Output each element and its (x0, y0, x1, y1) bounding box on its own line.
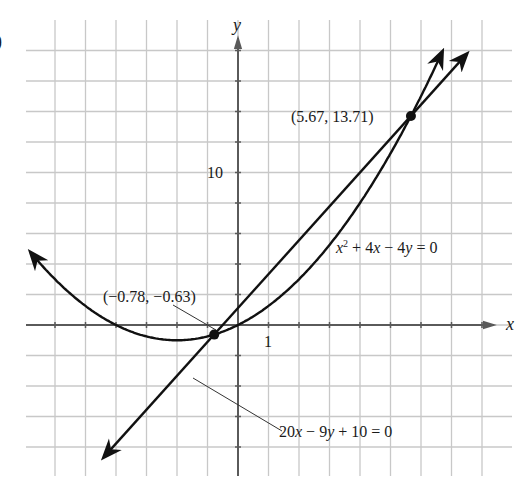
parabola-curve (31, 52, 443, 341)
eq-part: 20 (279, 423, 295, 440)
eq-part: + 10 = 0 (334, 423, 392, 440)
x-tick-1: 1 (264, 334, 272, 350)
leader-lines (173, 305, 282, 431)
eq-part: − 4 (380, 239, 405, 256)
equation-line: 20x − 9y + 10 = 0 (279, 424, 392, 440)
point-label-lower: (−0.78, −0.63) (103, 289, 196, 305)
equation-parabola: x2 + 4x − 4y = 0 (336, 239, 437, 256)
intersection-point (209, 330, 219, 340)
eq-part: − 9 (302, 423, 327, 440)
grid-lines (26, 20, 512, 476)
intersection-point (406, 111, 416, 121)
graph-plot (0, 0, 528, 488)
eq-part: = 0 (412, 239, 437, 256)
y-tick-10: 10 (207, 165, 223, 181)
y-axis-label: y (233, 16, 241, 34)
x-axis-label: x (506, 315, 514, 333)
point-label-upper: (5.67, 13.71) (291, 109, 374, 125)
eq-part: + 4 (348, 239, 373, 256)
axes (26, 38, 494, 476)
